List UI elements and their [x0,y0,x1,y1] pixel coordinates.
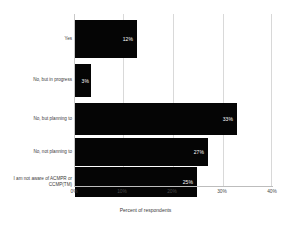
bar-value-label: 27% [194,149,204,155]
x-tick-0: 0% [71,189,78,194]
x-tick-30: 30% [217,189,227,194]
bar-no-but-planning-to[interactable]: 33% [75,103,237,135]
category-label-yes: Yes [4,36,72,42]
x-axis-line [74,186,273,187]
bar-no-but-in-progress[interactable]: 3% [75,64,91,97]
x-axis-title: Percent of respondents [0,207,291,213]
x-tick-40: 40% [267,189,277,194]
bar-row: 3% [75,64,271,97]
bar-row: 27% [75,138,271,166]
chart-page: 12% 3% 33% 27% 25% Yes No, but in [0,0,291,230]
category-label-planning-to: No, but planning to [4,116,72,122]
bar-yes[interactable]: 12% [75,20,137,58]
category-label-not-aware: I am not aware of ACMPR or CCMP(TM) [4,176,72,188]
plot-area: 12% 3% 33% 27% 25% [74,14,272,186]
category-label-not-planning-to: No, not planning to [4,149,72,155]
bar-row: 12% [75,20,271,58]
x-axis-ticks: 0% 10% 20% 30% 40% [74,189,272,199]
bar-no-not-planning-to[interactable]: 27% [75,138,208,166]
y-axis-labels: Yes No, but in progress No, but planning… [2,14,72,186]
bar-value-label: 3% [82,78,89,84]
x-tick-10: 10% [117,189,127,194]
x-tick-20: 20% [167,189,177,194]
bar-value-label: 12% [123,36,133,42]
category-label-in-progress: No, but in progress [4,77,72,83]
bar-row: 33% [75,103,271,135]
bar-value-label: 25% [183,179,193,185]
bar-value-label: 33% [223,116,233,122]
